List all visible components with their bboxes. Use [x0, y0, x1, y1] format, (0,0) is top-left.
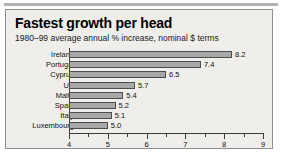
bar-value-label: 5.4: [126, 91, 136, 101]
bar: [69, 61, 201, 68]
bar-row: Spain5.2: [6, 101, 272, 111]
bar-category-label: Portugal: [0, 60, 74, 70]
x-axis-tick-label: 9: [253, 140, 273, 149]
bar: [69, 112, 112, 119]
bar-value-label: 5.0: [111, 121, 121, 131]
chart-page: Fastest growth per head 1980–99 average …: [0, 0, 282, 160]
bar: [69, 82, 135, 89]
x-axis-tick-label: 5: [98, 140, 118, 149]
bar: [69, 71, 166, 78]
bar-value-label: 6.5: [169, 70, 179, 80]
top-rule-divider: [4, 3, 278, 6]
x-axis-tick-label: 4: [59, 140, 79, 149]
bar-category-label: Malta: [0, 91, 74, 101]
x-axis-minor-tick: [166, 134, 167, 137]
bar-category-label: Luxembourg: [0, 121, 74, 131]
x-axis-major-tick: [69, 134, 70, 139]
bar: [69, 102, 116, 109]
bar-value-label: 7.4: [204, 60, 214, 70]
bar-row: Ireland8.2: [6, 50, 272, 60]
bar-row: Luxembourg5.0: [6, 121, 272, 131]
bar-category-label: Cyprus: [0, 70, 74, 80]
x-axis-minor-tick: [205, 134, 206, 137]
x-axis-tick-label: 6: [137, 140, 157, 149]
bar-row: Cyprus6.5: [6, 70, 272, 80]
bar-row: Malta5.4: [6, 91, 272, 101]
chart-subtitle: 1980–99 average annual % increase, nomin…: [15, 33, 219, 43]
bar: [69, 92, 123, 99]
x-axis-major-tick: [108, 134, 109, 139]
bar-category-label: UK: [0, 81, 74, 91]
x-axis-major-tick: [263, 134, 264, 139]
bar-value-label: 8.2: [235, 50, 245, 60]
plot-area: Ireland8.2Portugal7.4Cyprus6.5UK5.7Malta…: [6, 48, 272, 148]
bar-category-label: Ireland: [0, 50, 74, 60]
x-axis-major-tick: [185, 134, 186, 139]
x-axis-major-tick: [224, 134, 225, 139]
bar-value-label: 5.1: [115, 111, 125, 121]
x-axis-minor-tick: [127, 134, 128, 137]
bar-category-label: Italy: [0, 111, 74, 121]
page-title: Fastest growth per head: [15, 15, 172, 31]
x-axis-tick-label: 7: [175, 140, 195, 149]
bar-value-label: 5.7: [138, 81, 148, 91]
x-axis-minor-tick: [244, 134, 245, 137]
bar-row: Portugal7.4: [6, 60, 272, 70]
x-axis-tick-label: 8: [214, 140, 234, 149]
chart-panel: Fastest growth per head 1980–99 average …: [5, 9, 273, 149]
bar: [69, 51, 232, 58]
bar-category-label: Spain: [0, 101, 74, 111]
bar-row: Italy5.1: [6, 111, 272, 121]
bar-row: UK5.7: [6, 81, 272, 91]
bar: [69, 122, 108, 129]
x-axis-minor-tick: [88, 134, 89, 137]
bar-value-label: 5.2: [119, 101, 129, 111]
x-axis-major-tick: [147, 134, 148, 139]
